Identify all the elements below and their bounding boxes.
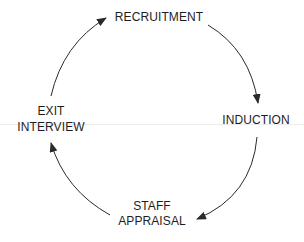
arrow-staff-appraisal-to-exit-interview — [51, 143, 110, 215]
arrow-exit-interview-to-recruitment — [51, 18, 106, 96]
arrow-induction-to-staff-appraisal — [197, 137, 257, 219]
node-induction-label: INDUCTION — [218, 113, 294, 127]
node-exit-interview-line-2: INTERVIEW — [14, 119, 88, 135]
node-induction: INDUCTION — [218, 113, 294, 127]
arrow-recruitment-to-induction — [208, 25, 258, 103]
node-staff-appraisal: STAFF APPRAISAL — [114, 199, 190, 229]
node-recruitment: RECRUITMENT — [114, 10, 204, 24]
node-exit-interview-line-1: EXIT — [14, 103, 88, 119]
node-recruitment-label: RECRUITMENT — [114, 10, 204, 24]
node-exit-interview: EXIT INTERVIEW — [14, 103, 88, 135]
node-staff-appraisal-line-1: STAFF — [114, 199, 190, 214]
staff-lifecycle-diagram: RECRUITMENT INDUCTION STAFF APPRAISAL EX… — [0, 0, 304, 242]
node-staff-appraisal-line-2: APPRAISAL — [114, 214, 190, 229]
